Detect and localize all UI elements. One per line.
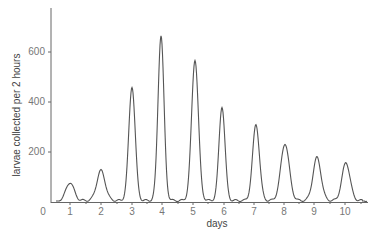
- x-tick-3: 3: [129, 206, 135, 217]
- x-tick-9: 9: [311, 206, 317, 217]
- x-tick-7: 7: [251, 206, 257, 217]
- y-axis: 200 400 600 larvae collected per 2 hours: [11, 8, 51, 203]
- x-tick-1: 1: [67, 206, 73, 217]
- y-axis-label: larvae collected per 2 hours: [11, 54, 22, 177]
- x-tick-8: 8: [281, 206, 287, 217]
- x-tick-5: 5: [190, 206, 196, 217]
- x-tick-4: 4: [159, 206, 165, 217]
- x-tick-10: 10: [339, 206, 351, 217]
- y-tick-200: 200: [28, 146, 45, 157]
- y-tick-400: 400: [28, 96, 45, 107]
- x-axis-label: days: [206, 218, 227, 229]
- larvae-series-line: [56, 36, 367, 202]
- x-tick-2: 2: [98, 206, 104, 217]
- y-tick-600: 600: [28, 46, 45, 57]
- x-tick-0: 0: [40, 206, 46, 217]
- chart: 200 400 600 larvae collected per 2 hours…: [0, 0, 380, 234]
- x-axis: 0 1 2 3 4 5 6 7 8 9 10 days: [40, 202, 368, 229]
- x-tick-6: 6: [221, 206, 227, 217]
